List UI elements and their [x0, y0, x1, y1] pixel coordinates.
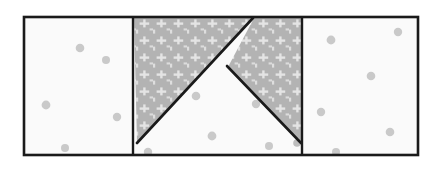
rectangle-interior: [24, 14, 418, 156]
diagram-root: Rectangle divided into three vertical pa…: [0, 0, 444, 172]
speckle-dot: [265, 142, 273, 150]
speckle-dot: [208, 132, 217, 141]
speckle-dot: [192, 92, 201, 101]
shaded-rectangle-figure: [0, 0, 444, 172]
left-panel: [24, 17, 133, 155]
speckle-dot: [327, 36, 336, 45]
speckle-dot: [42, 101, 51, 110]
speckle-dot: [102, 56, 110, 64]
speckle-dot: [113, 113, 121, 121]
speckle-dot: [317, 108, 325, 116]
speckle-dot: [76, 44, 85, 53]
speckle-dot: [61, 144, 69, 152]
speckle-dot: [367, 72, 376, 81]
right-panel: [302, 17, 418, 155]
speckle-dot: [386, 128, 395, 137]
speckle-dot: [394, 28, 402, 36]
